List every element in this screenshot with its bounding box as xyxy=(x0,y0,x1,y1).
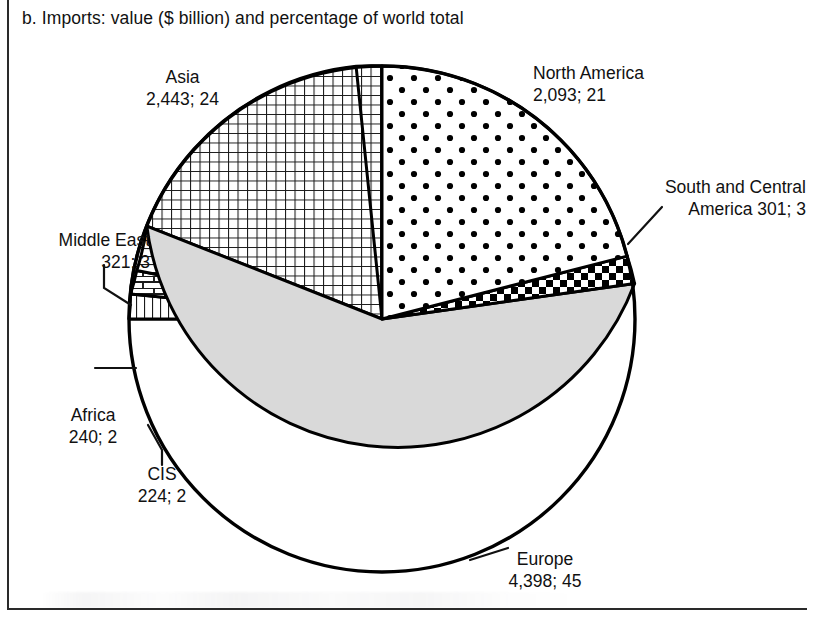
slice-label-africa-name: Africa xyxy=(33,404,153,426)
slice-label-north-america-name: North America xyxy=(533,62,743,84)
slice-label-asia: Asia 2,443; 24 xyxy=(110,66,255,111)
slice-label-africa: Africa 240; 2 xyxy=(33,404,153,449)
slice-label-south-central-america: South and Central America 301; 3 xyxy=(566,176,806,221)
slice-label-europe-value: 4,398; 45 xyxy=(450,570,640,592)
slice-label-south-central-america-name: South and Central xyxy=(566,176,806,198)
slice-label-asia-value: 2,443; 24 xyxy=(110,88,255,110)
slice-label-asia-name: Asia xyxy=(110,66,255,88)
slice-label-cis: CIS 224; 2 xyxy=(106,463,218,508)
slice-label-middle-east-name: Middle East xyxy=(10,229,150,251)
slice-label-middle-east-value: 321; 3 xyxy=(10,251,150,273)
slice-label-cis-name: CIS xyxy=(106,463,218,485)
slice-label-north-america-value: 2,093; 21 xyxy=(533,84,743,106)
slice-label-europe-name: Europe xyxy=(450,548,640,570)
slice-label-north-america: North America 2,093; 21 xyxy=(533,62,743,107)
slice-label-europe: Europe 4,398; 45 xyxy=(450,548,640,593)
slice-label-south-central-america-value: America 301; 3 xyxy=(566,198,806,220)
slice-label-africa-value: 240; 2 xyxy=(33,426,153,448)
figure-container: b. Imports: value ($ billion) and percen… xyxy=(0,0,813,625)
slice-label-cis-value: 224; 2 xyxy=(106,485,218,507)
slice-label-middle-east: Middle East 321; 3 xyxy=(10,229,150,274)
